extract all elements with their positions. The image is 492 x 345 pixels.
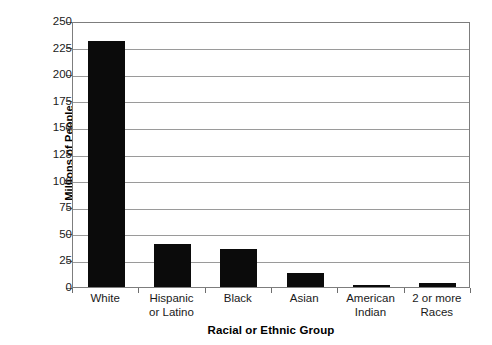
bars-layer — [73, 23, 469, 287]
x-axis-labels: WhiteHispanicor LatinoBlackAsianAmerican… — [72, 292, 470, 326]
x-tick-label-line: or Latino — [125, 306, 217, 320]
bar — [419, 283, 456, 287]
plot-area — [72, 22, 470, 288]
bar — [287, 273, 324, 287]
y-tick-label: 175 — [16, 96, 72, 107]
y-tick-label: 25 — [16, 255, 72, 266]
y-tick-label: 100 — [16, 176, 72, 187]
y-tick-label: 225 — [16, 43, 72, 54]
x-tick-label: 2 or moreRaces — [391, 292, 483, 319]
x-tick-label-line: Races — [391, 306, 483, 320]
bar-chart: Millions of People 025507510012515017520… — [0, 0, 492, 345]
x-tick-label-line: 2 or more — [391, 292, 483, 306]
bar — [220, 249, 257, 287]
y-tick-label: 125 — [16, 149, 72, 160]
x-axis-title: Racial or Ethnic Group — [72, 324, 470, 336]
bar — [154, 244, 191, 287]
y-tick-label: 75 — [16, 202, 72, 213]
bar — [88, 41, 125, 287]
y-tick-label: 150 — [16, 122, 72, 133]
y-tick-label: 200 — [16, 69, 72, 80]
y-tick-label: 250 — [16, 16, 72, 27]
bar — [353, 285, 390, 287]
y-tick-label: 50 — [16, 229, 72, 240]
